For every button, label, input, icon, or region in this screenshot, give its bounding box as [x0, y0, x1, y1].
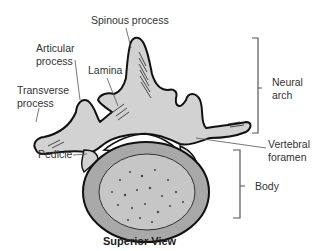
label-neural-arch-line1: Neural: [272, 76, 303, 88]
neural-arch-bracket: [252, 38, 262, 133]
label-transverse-process-line1: Transverse: [17, 84, 69, 96]
label-transverse-process-line2: process: [17, 97, 54, 109]
label-vertebral-foramen-line2: foramen: [268, 151, 307, 163]
body-bracket: [233, 150, 245, 218]
vertebral-body-cancellous: [99, 154, 195, 230]
vertebra-illustration: [0, 0, 323, 251]
label-articular-process-line1: Articular: [36, 42, 75, 54]
label-lamina: Lamina: [88, 64, 122, 76]
label-articular-process-line2: process: [36, 55, 73, 67]
label-neural-arch-line2: arch: [272, 89, 292, 101]
label-body: Body: [255, 180, 279, 192]
label-vertebral-foramen-line1: Vertebral: [268, 138, 310, 150]
label-pedicle: Pedicle: [38, 148, 72, 160]
caption-superior-view: Superior View: [103, 235, 176, 247]
label-spinous-process: Spinous process: [91, 14, 169, 26]
